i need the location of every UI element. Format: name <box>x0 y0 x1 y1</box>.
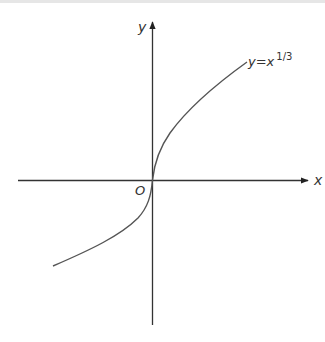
x-axis-label: x <box>313 172 323 188</box>
cube-root-diagram: y x O y=x1/3 <box>0 0 325 342</box>
equation-exponent: 1/3 <box>276 51 292 62</box>
curve-equation-label: y=x1/3 <box>247 51 292 69</box>
y-axis-label: y <box>137 19 147 35</box>
origin-label: O <box>135 183 145 198</box>
equation-base: y=x <box>247 54 275 69</box>
cube-root-curve <box>53 62 247 266</box>
